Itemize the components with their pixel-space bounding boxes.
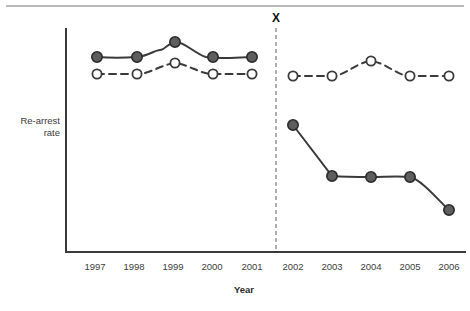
comparison-markers-post	[288, 56, 453, 80]
x-tick-2003: 2003	[321, 261, 342, 272]
x-tick-2001: 2001	[241, 261, 262, 272]
x-tick-1998: 1998	[123, 261, 144, 272]
y-axis-title: Re-arrest rate	[2, 115, 60, 139]
x-tick-2005: 2005	[399, 261, 420, 272]
x-axis-title: Year	[0, 284, 470, 295]
treatment-markers-post	[288, 120, 454, 215]
x-axis-tick-labels: 1997 1998 1999 2000 2001 2002 2003 2004 …	[0, 261, 470, 275]
treatment-line-post	[293, 125, 449, 210]
x-tick-1999: 1999	[162, 261, 183, 272]
x-tick-2004: 2004	[360, 261, 381, 272]
x-tick-2002: 2002	[282, 261, 303, 272]
intervention-marker-label: X	[272, 11, 280, 25]
chart-figure: X Re-arrest rate 1997 1998 1999 2000 200…	[0, 0, 470, 311]
x-axis-title-text: Year	[234, 284, 254, 295]
x-tick-2000: 2000	[201, 261, 222, 272]
x-tick-1997: 1997	[84, 261, 105, 272]
comparison-markers-pre	[92, 58, 256, 78]
x-tick-2006: 2006	[438, 261, 459, 272]
